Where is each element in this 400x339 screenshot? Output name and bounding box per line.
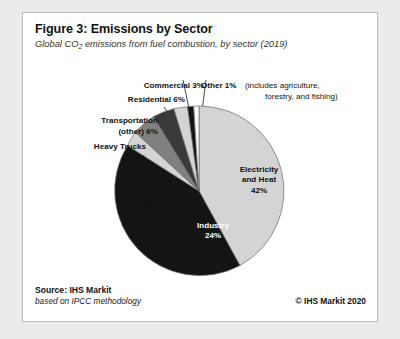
callout-transportation-line2: (other) 6% <box>38 127 158 138</box>
slice-label-industry-line2: 24% <box>178 231 248 241</box>
figure-card: Figure 3: Emissions by Sector Global CO2… <box>22 12 378 322</box>
callout-other-note-line1: (includes agriculture, <box>245 81 338 92</box>
callout-other-note-line2: forestry, and fishing) <box>245 92 338 103</box>
slice-label-electricity-line2: and Heat <box>219 175 299 185</box>
methodology-label: based on IPCC methodology <box>35 296 141 306</box>
callout-heavy-trucks: Heavy Trucks 7% <box>33 142 146 163</box>
slice-label-cars-line3: 11% <box>115 199 195 209</box>
callout-transportation-line1: Transportation <box>38 116 158 127</box>
callout-heavy-trucks-line1: Heavy Trucks <box>33 142 146 153</box>
callout-other: Other 1% <box>201 81 237 92</box>
callout-transportation-other: Transportation (other) 6% <box>38 116 158 137</box>
slice-label-cars-and-light-trucks: Cars and Light Trucks 11% <box>115 178 195 209</box>
slice-label-industry: Industry 24% <box>178 221 248 242</box>
slice-label-industry-line1: Industry <box>178 221 248 231</box>
pie-chart: Electricity and Heat 42% Industry 24% Ca… <box>23 13 379 323</box>
slice-label-electricity-and-heat: Electricity and Heat 42% <box>219 165 299 196</box>
callout-other-note: (includes agriculture, forestry, and fis… <box>245 81 338 102</box>
callout-residential: Residential 6% <box>58 95 185 106</box>
source-label: Source: IHS Markit <box>35 285 111 295</box>
copyright-label: © IHS Markit 2020 <box>296 296 366 306</box>
callout-commercial: Commercial 3% <box>83 81 204 92</box>
callout-heavy-trucks-line2: 7% <box>33 153 146 164</box>
slice-label-cars-line2: Light Trucks <box>115 188 195 198</box>
slice-label-electricity-line3: 42% <box>219 186 299 196</box>
slice-label-electricity-line1: Electricity <box>219 165 299 175</box>
slice-label-cars-line1: Cars and <box>115 178 195 188</box>
